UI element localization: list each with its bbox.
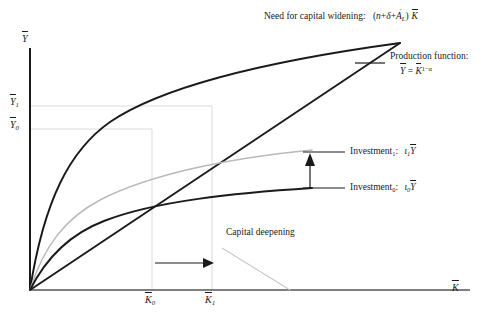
capital-widening-label: Need for capital widening: — [264, 11, 366, 21]
investment0-annotation: Investment0: ι0Y — [350, 182, 416, 193]
capital-widening-annotation: Need for capital widening: (n+δ+̇AL)K — [264, 11, 418, 22]
x-tick-label-1: K1 — [205, 294, 215, 307]
y-axis-label: Y — [22, 33, 28, 45]
production-function-formula: Y = K1−α — [390, 64, 468, 79]
investment1-curve — [30, 150, 312, 290]
capital-deepening-leader — [222, 248, 290, 290]
investment1-label: Investment — [350, 146, 392, 156]
production-function-annotation: Production function: Y = K1−α — [390, 50, 468, 79]
y-tick-label-0: Y0 — [10, 119, 19, 132]
investment0-formula: ι0Y — [404, 182, 415, 192]
investment1-annotation: Investment1: ι1Y — [350, 146, 416, 157]
y-tick-label-1: Y1 — [10, 96, 19, 109]
investment0-curve — [30, 188, 312, 290]
investment1-formula: ι1Y — [404, 146, 415, 156]
diagram-canvas — [0, 0, 504, 322]
x-axis-label: K — [452, 282, 459, 294]
investment-shift-arrow-head — [305, 153, 315, 166]
solow-model-figure: Y Y1 Y0 K0 K1 K Need for capital widenin… — [0, 0, 504, 322]
x-tick-label-0: K0 — [145, 294, 155, 307]
investment0-label: Investment — [350, 182, 392, 192]
capital-deepening-annotation: Capital deepening — [226, 227, 295, 238]
production-function-label: Production function: — [390, 51, 468, 61]
capital-widening-line — [30, 43, 400, 290]
capital-widening-formula: (n+δ+̇AL)K — [373, 11, 418, 21]
